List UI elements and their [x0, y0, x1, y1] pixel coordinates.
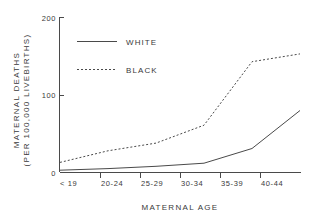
maternal-mortality-line-chart: 200 100 0 < 19 20-24 25-29 30-34 35-39 4…	[0, 0, 320, 219]
y-tick-label-100: 100	[42, 91, 56, 100]
y-axis-title-line1: MATERNAL DEATHS	[12, 52, 21, 148]
x-tick-label-1: 20-24	[101, 179, 123, 188]
x-tick-label-2: 25-29	[141, 179, 163, 188]
y-axis-title-line2: (PER 100,000 LIVEBIRTHS)	[22, 34, 31, 167]
y-tick-label-200: 200	[42, 14, 56, 23]
legend-label-white: WHITE	[126, 38, 157, 47]
legend-label-black: BLACK	[126, 66, 158, 75]
x-tick-label-5: 40-44	[261, 179, 283, 188]
chart-page: 200 100 0 < 19 20-24 25-29 30-34 35-39 4…	[0, 0, 320, 219]
x-tick-label-4: 35-39	[221, 179, 243, 188]
y-tick-label-0: 0	[51, 169, 56, 178]
x-tick-label-0: < 19	[60, 179, 77, 188]
x-tick-label-3: 30-34	[181, 179, 203, 188]
series-line-black	[60, 54, 300, 162]
x-axis-title: MATERNAL AGE	[142, 203, 219, 212]
series-line-white	[60, 111, 300, 171]
